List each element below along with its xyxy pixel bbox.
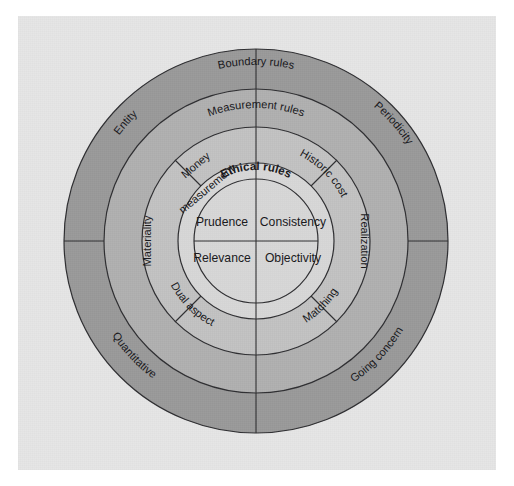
label-consistency: Consistency — [260, 215, 327, 229]
diagram-frame: Boundary rules Measurement rules Ethical… — [18, 16, 496, 470]
label-realization: Realization — [359, 213, 371, 268]
label-objectivity: Objectivity — [265, 251, 322, 265]
label-materiality: Materiality — [141, 215, 153, 266]
label-prudence: Prudence — [196, 215, 248, 229]
diagram-page: Boundary rules Measurement rules Ethical… — [0, 0, 514, 486]
accounting-concepts-wheel: Boundary rules Measurement rules Ethical… — [18, 16, 496, 470]
label-relevance: Relevance — [193, 251, 251, 265]
